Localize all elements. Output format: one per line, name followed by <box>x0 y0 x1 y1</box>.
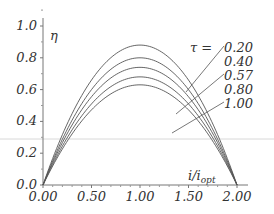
legend-label-tau-0.57: 0.57 <box>224 68 254 83</box>
y-tick-label: 0.2 <box>16 145 37 160</box>
x-axis-title: i/iopt <box>188 168 216 185</box>
x-tick-label: 1.00 <box>126 189 155 204</box>
leader-line <box>172 102 224 133</box>
x-tick-label: 0.50 <box>77 189 106 204</box>
legend-label-tau-1.00: 1.00 <box>224 96 253 111</box>
x-tick-label: 2.00 <box>222 189 252 204</box>
legend-title: τ = <box>190 40 212 55</box>
y-tick-label: 0.6 <box>16 82 37 97</box>
x-tick-label: 0.00 <box>29 189 58 204</box>
y-ticks: 0.00.20.40.60.81.0 <box>16 10 43 192</box>
legend-label-tau-0.40: 0.40 <box>224 54 253 69</box>
x-ticks: 0.000.501.001.502.00 <box>29 185 252 204</box>
y-tick-label: 1.0 <box>16 18 37 33</box>
legend: τ = 0.200.400.570.801.00 <box>172 40 254 133</box>
legend-label-tau-0.80: 0.80 <box>224 82 253 97</box>
x-tick-label: 1.50 <box>174 189 203 204</box>
efficiency-chart: 0.00.20.40.60.81.0 0.000.501.001.502.00 … <box>0 0 274 214</box>
leader-line <box>176 74 224 114</box>
y-tick-label: 0.8 <box>16 50 37 65</box>
legend-label-tau-0.20: 0.20 <box>224 40 253 55</box>
y-axis-title: η <box>50 28 58 43</box>
curve-tau-1.00 <box>43 85 237 185</box>
curve-tau-0.80 <box>43 77 237 185</box>
y-tick-label: 0.4 <box>16 113 37 128</box>
